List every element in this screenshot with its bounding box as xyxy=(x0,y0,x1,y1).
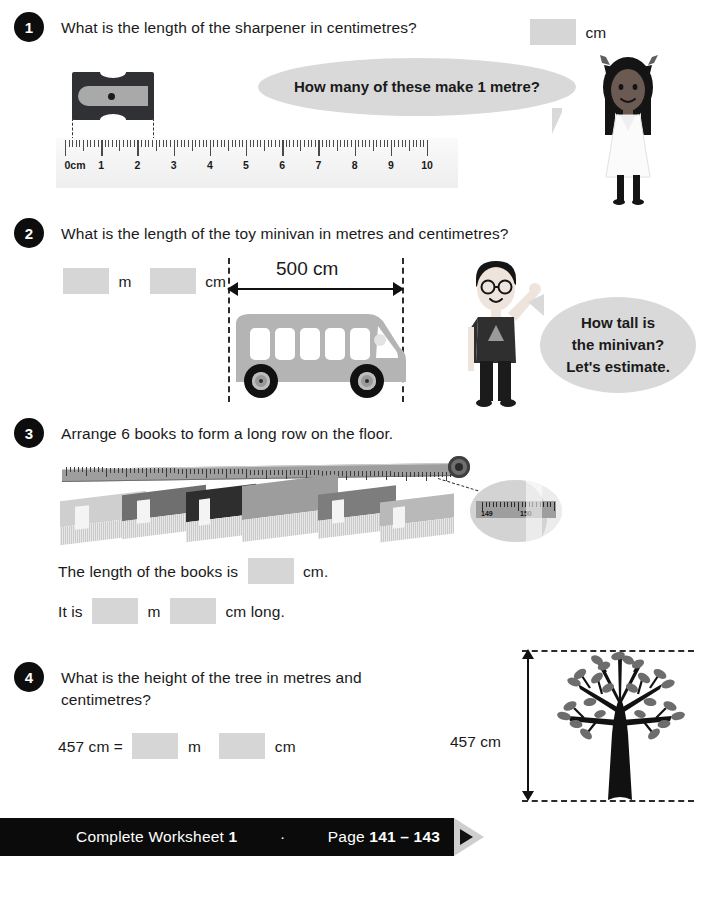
ruler-tick xyxy=(148,140,149,147)
question-3-line1: The length of the books is cm. xyxy=(58,558,328,584)
ruler-tick xyxy=(289,140,290,147)
ruler-tick xyxy=(98,140,99,147)
measuring-tape-tick xyxy=(106,468,107,477)
measuring-tape-tick xyxy=(142,468,143,473)
question-4-text: What is the height of the tree in metres… xyxy=(61,662,406,712)
q3-line1-suffix: cm. xyxy=(303,563,328,580)
magnifier-tick xyxy=(493,502,494,507)
ruler-tick xyxy=(87,140,88,147)
answer-box-q4-m[interactable] xyxy=(132,733,178,759)
ruler-tick xyxy=(72,140,73,147)
ruler-tick xyxy=(65,140,66,156)
measuring-tape-tick xyxy=(242,469,243,474)
measuring-tape-tick xyxy=(266,470,267,479)
measuring-tape-tick xyxy=(86,467,87,476)
measuring-tape-tick xyxy=(234,469,235,474)
ruler-tick xyxy=(387,140,388,147)
measuring-tape-tick xyxy=(414,472,415,477)
measuring-tape-tick xyxy=(358,471,359,476)
measuring-tape-tick xyxy=(322,471,323,476)
measuring-tape-tick xyxy=(302,470,303,475)
ruler-tick xyxy=(246,140,247,156)
measuring-tape-tick xyxy=(118,468,119,473)
measuring-tape-tick xyxy=(130,468,131,473)
question-4-answer-group: 457 cm = m cm xyxy=(58,733,296,759)
measuring-tape-tick xyxy=(282,470,283,475)
ruler-tick xyxy=(275,140,276,147)
answer-box-q1-cm[interactable] xyxy=(530,19,576,45)
ruler-number: 10 xyxy=(421,159,433,171)
measuring-tape-tick xyxy=(318,470,319,475)
measuring-tape-tick xyxy=(338,471,339,476)
answer-box-q2-m[interactable] xyxy=(63,268,109,294)
measuring-tape-tick xyxy=(158,468,159,473)
ruler-tick xyxy=(174,140,175,156)
measuring-tape-tick xyxy=(222,469,223,474)
question-2-text: What is the length of the toy minivan in… xyxy=(61,218,509,245)
ruler-tick xyxy=(384,140,385,147)
worksheet-page: 1 What is the length of the sharpener in… xyxy=(0,0,702,908)
ruler-tick xyxy=(206,140,207,147)
answer-box-q3-m[interactable] xyxy=(92,598,138,624)
magnifier-tick xyxy=(522,502,523,507)
measuring-tape-tick xyxy=(122,468,123,473)
ruler-tick xyxy=(333,140,334,147)
measuring-tape-tick xyxy=(102,467,103,472)
measuring-tape-tick xyxy=(150,468,151,473)
measuring-tape-tick xyxy=(386,471,387,480)
measuring-tape-tick xyxy=(182,469,183,474)
question-3-badge: 3 xyxy=(14,418,44,448)
answer-box-q2-cm[interactable] xyxy=(150,268,196,294)
ruler-tick xyxy=(163,140,164,147)
measuring-tape-tick xyxy=(350,471,351,476)
measuring-tape-tick xyxy=(174,468,175,473)
magnifier-tick xyxy=(504,502,505,507)
measuring-tape-tick xyxy=(230,469,231,474)
ruler-tick xyxy=(257,140,258,147)
sharpener-screw-hole xyxy=(108,93,115,100)
measuring-tape-tick xyxy=(378,471,379,476)
measuring-tape-tick xyxy=(94,467,95,472)
answer-box-q4-cm[interactable] xyxy=(219,733,265,759)
ruler-tick xyxy=(394,140,395,147)
answer-box-q3-total-cm[interactable] xyxy=(248,558,294,584)
ruler-tick xyxy=(181,140,182,147)
ruler-tick xyxy=(427,140,428,156)
measuring-tape-tick xyxy=(402,472,403,477)
measuring-tape-tick xyxy=(114,468,115,473)
measuring-tape-tick xyxy=(262,470,263,475)
ruler-tick xyxy=(337,140,338,151)
ruler-tick xyxy=(420,140,421,147)
measuring-tape-tick xyxy=(438,472,439,477)
question-1-text: What is the length of the sharpener in c… xyxy=(61,12,417,39)
q3-line1-prefix: The length of the books is xyxy=(58,563,238,580)
q3-line2-prefix: It is xyxy=(58,603,83,620)
ruler-tick xyxy=(365,140,366,147)
measuring-tape-tick xyxy=(314,470,315,475)
measuring-tape-tick xyxy=(134,468,135,473)
measuring-tape-tick xyxy=(298,470,299,475)
ruler-tick xyxy=(79,140,80,147)
unit-label-m-q2: m xyxy=(118,273,131,290)
footer-text: Complete Worksheet 1 · Page 141 – 143 xyxy=(0,828,440,846)
ruler-tick xyxy=(184,140,185,147)
ruler-tick xyxy=(127,140,128,147)
answer-box-q3-cm[interactable] xyxy=(170,598,216,624)
ruler-tick xyxy=(119,140,120,151)
ruler-tick xyxy=(83,140,84,151)
measuring-tape-reel xyxy=(448,456,470,478)
ruler-tick xyxy=(94,140,95,147)
measuring-tape-tick xyxy=(190,469,191,474)
ruler-tick xyxy=(239,140,240,147)
magnifier-tick xyxy=(486,502,487,507)
ruler-tick xyxy=(221,140,222,147)
ruler-tick xyxy=(228,140,229,151)
measuring-tape-tick xyxy=(398,472,399,477)
speech-bubble-q2-line3: Let's estimate. xyxy=(566,356,670,378)
measuring-tape-tick xyxy=(154,468,155,473)
minivan-wheel-front xyxy=(244,364,278,398)
measuring-tape-tick xyxy=(170,468,171,473)
measuring-tape-tick xyxy=(206,469,207,478)
measuring-tape-tick xyxy=(98,467,99,472)
magnifier-tick xyxy=(554,502,555,511)
